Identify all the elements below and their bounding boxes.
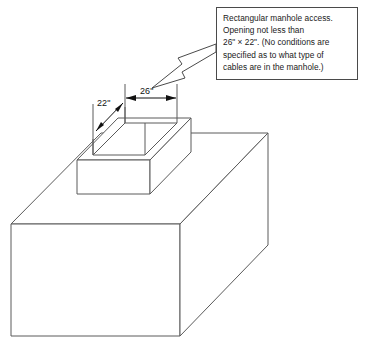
note-line-4: specified as to what type of [223,49,352,61]
dim-arrowhead-26-left [126,95,136,101]
manhole-access-note: Rectangular manhole access. Opening not … [216,7,358,80]
note-line-1: Rectangular manhole access. [223,12,352,24]
note-line-3: 26" × 22". (No conditions are [223,36,352,48]
dim-arrowhead-26-right [166,95,176,101]
slab-front-face [11,224,180,336]
note-line-5: cables are in the manhole.) [223,61,352,73]
callout-leader-arrow [152,44,216,88]
manhole-access-figure: Rectangular manhole access. Opening not … [0,0,365,345]
dimension-label-26: 26" [140,86,154,96]
dimension-label-22: 22" [97,98,111,108]
note-line-2: Opening not less than [223,24,352,36]
collar-front-face [77,160,150,194]
